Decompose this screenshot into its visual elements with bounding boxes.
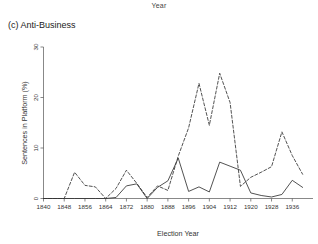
- figure-container: Year (c) Anti-Business Sentences in Plat…: [0, 0, 318, 244]
- x-tick-label: 1872: [120, 203, 134, 210]
- y-tick-label: 20: [32, 94, 39, 101]
- x-tick-label: 1856: [78, 203, 92, 210]
- y-tick-label: 0: [32, 196, 39, 200]
- series-line-dashed: [44, 73, 303, 198]
- line-chart-svg: Sentences in Platform (%) Election Year …: [0, 0, 318, 244]
- x-tick-label: 1888: [161, 203, 175, 210]
- x-tick-label: 1928: [265, 203, 279, 210]
- y-tick-group: 0102030: [32, 43, 44, 200]
- y-tick-label: 10: [32, 144, 39, 151]
- x-tick-label: 1864: [99, 203, 113, 210]
- x-tick-label: 1936: [285, 203, 299, 210]
- x-tick-label: 1896: [182, 203, 196, 210]
- x-tick-label: 1912: [223, 203, 237, 210]
- x-axis-label: Election Year: [157, 229, 200, 238]
- x-tick-label: 1880: [140, 203, 154, 210]
- x-tick-label: 1904: [202, 203, 216, 210]
- x-tick-label: 1920: [244, 203, 258, 210]
- x-tick-label: 1848: [57, 203, 71, 210]
- x-tick-group: 1840184818561864187218801888189619041912…: [37, 199, 300, 211]
- plot-area: Sentences in Platform (%) Election Year …: [0, 0, 318, 244]
- y-axis-label: Sentences in Platform (%): [20, 81, 29, 165]
- y-tick-label: 30: [32, 43, 39, 50]
- x-tick-label: 1840: [37, 203, 51, 210]
- series-line-solid: [44, 158, 303, 198]
